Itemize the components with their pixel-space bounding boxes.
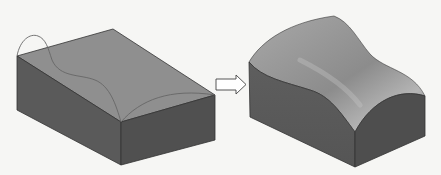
diagram-canvas: [0, 0, 441, 175]
original-block: [17, 29, 215, 165]
result-solid: [249, 16, 425, 167]
diagram-svg: [0, 0, 441, 175]
transform-arrow-icon: [216, 75, 246, 94]
